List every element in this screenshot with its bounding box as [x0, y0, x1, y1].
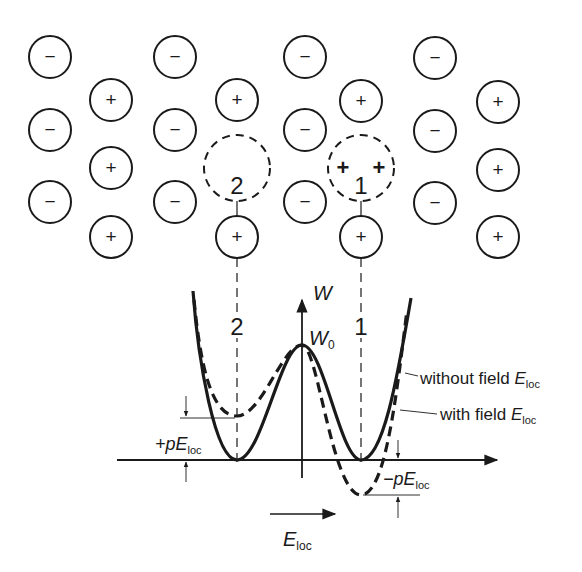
legend-with-field: with field Eloc — [439, 405, 537, 426]
anion-symbol: − — [169, 119, 180, 140]
anion-symbol: − — [299, 119, 310, 140]
potential-curve-with-field — [194, 300, 407, 495]
anion-symbol: − — [429, 120, 440, 141]
legend-without-field: without field Eloc — [419, 369, 540, 390]
cation-symbol: + — [492, 91, 503, 112]
anion: − — [29, 36, 71, 78]
vacancy-1: + + 1 — [328, 135, 394, 201]
cation-symbol: + — [355, 90, 366, 111]
interstitial-plus-left: + — [337, 155, 350, 180]
plus-shift-label: +pEloc — [155, 434, 202, 456]
vacancy-label: 1 — [354, 172, 367, 199]
anion-symbol: − — [169, 46, 180, 67]
cation: + — [216, 79, 258, 121]
cation-symbol: + — [492, 159, 503, 180]
cation: + — [90, 216, 132, 258]
anion: − — [414, 110, 456, 152]
anion: − — [29, 181, 71, 223]
anion-symbol: − — [44, 119, 55, 140]
cation: + — [340, 80, 382, 122]
cation: + — [477, 216, 519, 258]
y-axis-label: W — [313, 282, 334, 304]
cation-symbol: + — [492, 226, 503, 247]
anion: − — [154, 36, 196, 78]
anion-symbol: − — [169, 191, 180, 212]
anion: − — [414, 37, 456, 79]
cation: + — [477, 81, 519, 123]
cation: + — [216, 216, 258, 258]
cation-symbol: + — [105, 89, 116, 110]
cation-symbol: + — [105, 157, 116, 178]
anion: − — [154, 181, 196, 223]
cation: + — [90, 147, 132, 189]
anion: − — [154, 109, 196, 151]
anion: − — [414, 182, 456, 224]
cation-symbol: + — [105, 226, 116, 247]
position-label-1: 1 — [354, 313, 367, 340]
cation: + — [340, 216, 382, 258]
field-arrow-label: Eloc — [283, 528, 312, 553]
cation-symbol: + — [231, 89, 242, 110]
cation: + — [90, 79, 132, 121]
anion: − — [284, 109, 326, 151]
field-arrow: Eloc — [270, 514, 335, 553]
legend-leader-with — [400, 410, 437, 414]
position-label-2: 2 — [230, 313, 243, 340]
anion-symbol: − — [44, 191, 55, 212]
vacancy-label: 2 — [230, 172, 243, 199]
cation-group: ++++++++++ — [90, 79, 519, 258]
cation: + — [477, 149, 519, 191]
peak-label: W0 — [309, 327, 335, 352]
cation-symbol: + — [231, 226, 242, 247]
anion-symbol: − — [429, 192, 440, 213]
anion: − — [284, 181, 326, 223]
anion-symbol: − — [299, 191, 310, 212]
anion-symbol: − — [429, 47, 440, 68]
vacancy-2: 2 — [204, 135, 270, 201]
cation-symbol: + — [355, 226, 366, 247]
minus-shift-label: −pEloc — [383, 469, 430, 491]
interstitial-plus-right: + — [373, 155, 386, 180]
anion-symbol: − — [299, 46, 310, 67]
legend-leader-without — [405, 373, 418, 376]
anion-symbol: − — [44, 46, 55, 67]
diagram-canvas: −−−−−−−−−−−− ++++++++++ 2 + + 1 W W0 2 1… — [0, 0, 582, 572]
anion: − — [284, 36, 326, 78]
anion: − — [29, 109, 71, 151]
